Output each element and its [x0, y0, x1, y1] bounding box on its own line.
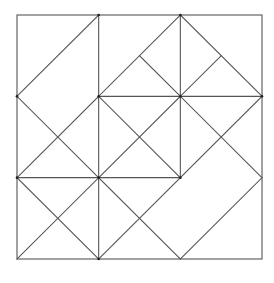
vertex-dot-5 — [16, 95, 19, 98]
vertex-dot-4 — [261, 95, 264, 98]
vertex-dot-3 — [179, 176, 182, 179]
vertex-dot-2 — [97, 176, 100, 179]
geometric-diagram — [0, 0, 274, 283]
diagram-background — [0, 0, 274, 283]
vertex-dot-0 — [97, 95, 100, 98]
vertex-dot-8 — [179, 14, 182, 17]
vertex-dot-6 — [16, 176, 19, 179]
vertex-dot-7 — [97, 14, 100, 17]
vertex-dot-9 — [97, 258, 100, 261]
vertex-dot-1 — [179, 95, 182, 98]
